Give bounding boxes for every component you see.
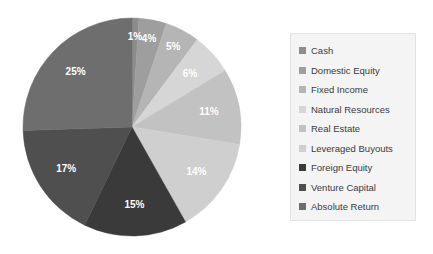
pie-data-label: 1%	[128, 31, 143, 42]
legend-swatch-icon	[299, 106, 306, 113]
chart-legend: CashDomestic EquityFixed IncomeNatural R…	[290, 33, 416, 221]
legend-item-list: CashDomestic EquityFixed IncomeNatural R…	[299, 41, 409, 217]
legend-item[interactable]: Fixed Income	[299, 80, 409, 100]
legend-item-label: Venture Capital	[311, 178, 376, 198]
legend-item-label: Natural Resources	[311, 100, 390, 120]
legend-swatch-icon	[299, 203, 306, 210]
legend-item[interactable]: Domestic Equity	[299, 61, 409, 81]
legend-item-label: Leveraged Buyouts	[311, 139, 393, 159]
pie-svg: 1%4%5%6%11%14%15%17%25%	[22, 17, 242, 237]
legend-item[interactable]: Absolute Return	[299, 197, 409, 217]
pie-data-label: 4%	[142, 33, 157, 44]
legend-item-label: Absolute Return	[311, 197, 379, 217]
legend-item[interactable]: Leveraged Buyouts	[299, 139, 409, 159]
legend-swatch-icon	[299, 67, 306, 74]
legend-item-label: Fixed Income	[311, 80, 368, 100]
legend-item[interactable]: Venture Capital	[299, 178, 409, 198]
legend-item[interactable]: Foreign Equity	[299, 158, 409, 178]
legend-item[interactable]: Real Estate	[299, 119, 409, 139]
legend-swatch-icon	[299, 125, 306, 132]
legend-swatch-icon	[299, 47, 306, 54]
pie-plot-area: 1%4%5%6%11%14%15%17%25%	[22, 17, 242, 237]
pie-data-label: 15%	[124, 199, 144, 210]
pie-chart-figure: 1%4%5%6%11%14%15%17%25% CashDomestic Equ…	[0, 0, 433, 254]
legend-item-label: Real Estate	[311, 119, 360, 139]
legend-swatch-icon	[299, 86, 306, 93]
legend-item[interactable]: Natural Resources	[299, 100, 409, 120]
pie-data-label: 25%	[66, 66, 86, 77]
legend-swatch-icon	[299, 145, 306, 152]
pie-data-label: 14%	[186, 166, 206, 177]
legend-item-label: Domestic Equity	[311, 61, 380, 81]
legend-item-label: Foreign Equity	[311, 158, 372, 178]
pie-data-label: 6%	[183, 68, 198, 79]
pie-data-label: 11%	[199, 106, 219, 117]
legend-item-label: Cash	[311, 41, 333, 61]
legend-item[interactable]: Cash	[299, 41, 409, 61]
legend-swatch-icon	[299, 184, 306, 191]
pie-data-label: 5%	[166, 41, 181, 52]
pie-data-label: 17%	[56, 163, 76, 174]
legend-swatch-icon	[299, 164, 306, 171]
